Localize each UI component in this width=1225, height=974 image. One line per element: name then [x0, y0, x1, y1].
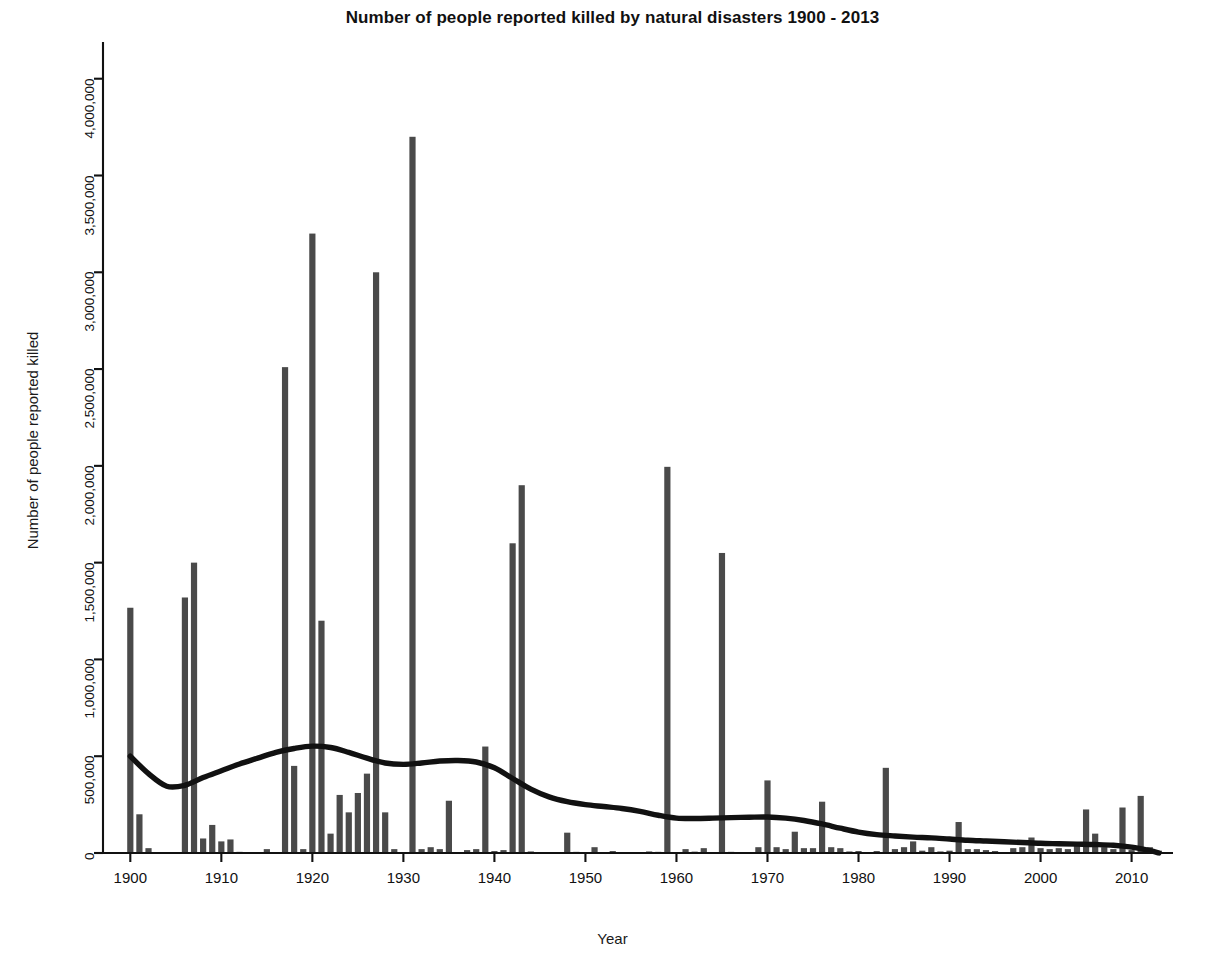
bar — [373, 272, 379, 853]
chart-figure: Number of people reported killed by natu… — [0, 0, 1225, 974]
bar — [318, 621, 324, 853]
bar — [127, 608, 133, 853]
x-tick-label: 1900 — [100, 869, 160, 886]
x-tick-label: 1940 — [464, 869, 524, 886]
x-tick-label: 1920 — [282, 869, 342, 886]
bar — [910, 841, 916, 853]
bar — [346, 812, 352, 853]
y-tick-label: 2,000,000 — [82, 465, 97, 543]
y-tick-label: 1,000,000 — [82, 659, 97, 737]
x-tick-label: 1950 — [555, 869, 615, 886]
bar — [446, 801, 452, 853]
bar — [191, 563, 197, 853]
x-tick-label: 2000 — [1011, 869, 1071, 886]
x-tick-label: 2010 — [1102, 869, 1162, 886]
axis-lines — [102, 42, 1173, 853]
bar — [819, 802, 825, 853]
bar — [883, 768, 889, 853]
bar-series — [127, 137, 1162, 854]
bar — [327, 834, 333, 853]
bar — [409, 137, 415, 853]
bar — [309, 234, 315, 853]
bar — [218, 841, 224, 853]
x-tick-label: 1930 — [373, 869, 433, 886]
bar — [337, 795, 343, 853]
y-tick-label: 3,000,000 — [82, 272, 97, 350]
bar — [364, 774, 370, 853]
bar — [291, 766, 297, 853]
bar — [227, 839, 233, 853]
y-tick-label: 2,500,000 — [82, 369, 97, 447]
bar — [282, 367, 288, 853]
x-tick-label: 1970 — [737, 869, 797, 886]
bar — [564, 833, 570, 853]
bar — [664, 467, 670, 853]
bar — [719, 553, 725, 853]
bar — [519, 485, 525, 853]
y-tick-label: 0 — [82, 853, 97, 931]
bar — [1138, 796, 1144, 853]
bar — [182, 597, 188, 853]
bar — [200, 838, 206, 853]
bar — [136, 814, 142, 853]
y-tick-label: 1,500,000 — [82, 562, 97, 640]
y-tick-label: 500,000 — [82, 756, 97, 834]
bar — [510, 543, 516, 853]
x-tick-label: 1980 — [829, 869, 889, 886]
bar — [792, 832, 798, 853]
plot-area — [0, 0, 1225, 974]
bar — [382, 812, 388, 853]
x-tick-label: 1990 — [920, 869, 980, 886]
y-tick-label: 3,500,000 — [82, 175, 97, 253]
x-tick-label: 1910 — [191, 869, 251, 886]
bar — [209, 825, 215, 853]
x-tick-label: 1960 — [646, 869, 706, 886]
y-tick-label: 4,000,000 — [82, 78, 97, 156]
bar — [355, 793, 361, 853]
axis-ticks — [94, 79, 1132, 862]
